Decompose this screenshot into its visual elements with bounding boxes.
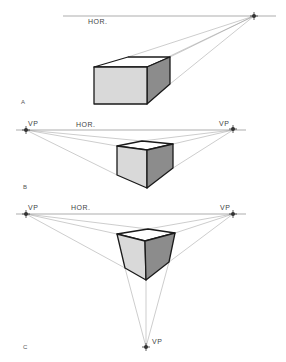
figure-label-a: A [21,99,25,105]
vp-label-b-left: VP [28,120,38,127]
box-b-right-face [147,144,173,188]
horizon-label-a: HOR. [88,18,108,25]
vp-label-b-right: VP [219,120,229,127]
box-a-front-face [94,67,147,104]
vanishing-point-b-left [22,126,30,134]
vp-label-c-left: VP [28,204,38,211]
figure-b [16,125,246,188]
figure-label-b: B [23,184,27,190]
horizon-label-c: HOR. [71,204,91,211]
vp-label-c-bottom: VP [152,338,162,345]
vanishing-point-a [250,12,258,20]
figure-label-c: C [23,344,27,350]
figure-a [63,12,276,104]
horizon-label-b: HOR. [76,121,96,128]
figure-c [16,210,246,351]
vanishing-point-c-bottom [142,343,150,351]
vanishing-point-c-right [229,210,237,218]
vanishing-point-c-left [22,210,30,218]
box-c-left-face [117,234,146,280]
vp-label-c-right: VP [220,204,230,211]
box-c-right-face [145,233,175,280]
box-b-left-face [117,146,147,188]
perspective-diagram [0,0,286,362]
